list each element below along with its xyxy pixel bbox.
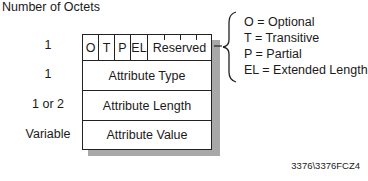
flags-row: O T P EL Reserved: [83, 35, 211, 61]
attribute-format-box: O T P EL Reserved Attribute Type Attribu…: [82, 34, 212, 150]
legend-item-optional: O = Optional: [244, 14, 368, 30]
legend-item-transitive: T = Transitive: [244, 30, 368, 46]
bit-tick: [180, 35, 181, 40]
bit-tick: [164, 35, 165, 40]
flag-t: T: [99, 35, 115, 60]
attribute-length-label: Attribute Length: [103, 99, 191, 113]
figure-id: 3376\3376FCZ4: [291, 160, 360, 171]
reserved-label: Reserved: [153, 41, 207, 55]
attribute-length-row: Attribute Length: [83, 91, 211, 121]
flag-o: O: [83, 35, 99, 60]
curly-brace-icon: [214, 10, 244, 86]
diagram-title: Number of Octets: [2, 0, 100, 14]
attribute-type-row: Attribute Type: [83, 61, 211, 91]
octet-count-type: 1: [18, 67, 78, 81]
attribute-value-label: Attribute Value: [106, 128, 187, 142]
legend-item-partial: P = Partial: [244, 46, 368, 62]
bit-tick: [196, 35, 197, 40]
flag-el: EL: [131, 35, 148, 60]
attribute-type-label: Attribute Type: [109, 69, 186, 83]
legend-item-extended-length: EL = Extended Length: [244, 62, 368, 78]
reserved-field: Reserved: [148, 35, 211, 60]
flag-p: P: [115, 35, 131, 60]
octet-count-flags: 1: [18, 38, 78, 52]
attribute-value-row: Attribute Value: [83, 121, 211, 149]
octet-count-length: 1 or 2: [18, 97, 78, 111]
octet-count-value: Variable: [18, 127, 78, 141]
legend: O = Optional T = Transitive P = Partial …: [244, 14, 368, 78]
